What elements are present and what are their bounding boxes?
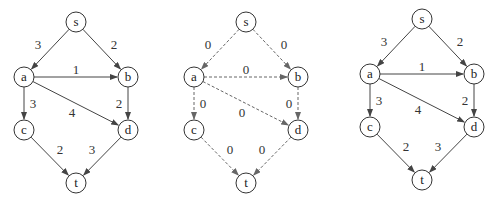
edge-weight-label: 0 [205, 37, 212, 52]
edge-weight-label: 3 [89, 142, 96, 157]
edge-line [33, 82, 118, 125]
edge-weight-label: 0 [286, 96, 293, 111]
edge-line [379, 79, 464, 122]
node-label: a [191, 69, 197, 84]
node-a: a [14, 67, 34, 87]
edge-weight-label: 4 [69, 105, 76, 120]
node-t: t [66, 173, 86, 193]
edge-d-t: 3 [84, 137, 121, 175]
edge-weight-label: 2 [462, 93, 469, 108]
node-label: d [471, 119, 478, 134]
node-label: a [367, 66, 373, 81]
edge-c-t: 2 [31, 137, 68, 175]
node-label: c [21, 122, 27, 137]
node-a: a [184, 67, 204, 87]
edge-c-t: 2 [377, 134, 414, 172]
edge-s-a: 0 [202, 29, 240, 69]
node-b: b [464, 64, 484, 84]
node-label: a [21, 69, 27, 84]
edge-weight-label: 0 [281, 37, 288, 52]
edge-weight-label: 2 [403, 139, 410, 154]
graph-original: 32134223sabcdt [14, 12, 138, 193]
edge-a-d: 0 [203, 82, 288, 125]
edge-c-t: 0 [201, 137, 238, 175]
node-t: t [412, 170, 432, 190]
edge-a-b: 0 [204, 62, 287, 78]
edge-s-a: 3 [32, 29, 70, 69]
edge-weight-label: 1 [73, 62, 80, 77]
edge-weight-label: 3 [381, 34, 388, 49]
edge-weight-label: 2 [116, 96, 123, 111]
node-t: t [236, 173, 256, 193]
edge-weight-label: 2 [457, 34, 464, 49]
node-s: s [412, 9, 432, 29]
edge-d-t: 0 [254, 137, 291, 175]
edge-weight-label: 2 [111, 37, 118, 52]
edge-weight-label: 3 [30, 96, 37, 111]
edge-weight-label: 0 [239, 105, 246, 120]
edge-b-d: 2 [116, 87, 128, 119]
edge-weight-label: 4 [415, 102, 422, 117]
edge-weight-label: 2 [57, 142, 64, 157]
edge-b-d: 0 [286, 87, 298, 119]
edge-weight-label: 0 [259, 142, 266, 157]
node-label: b [125, 69, 132, 84]
node-label: c [367, 119, 373, 134]
edge-a-d: 4 [33, 82, 118, 125]
edge-a-c: 3 [370, 84, 382, 116]
edge-b-d: 2 [462, 84, 474, 116]
edge-weight-label: 3 [35, 37, 42, 52]
edge-a-b: 1 [34, 62, 117, 78]
node-a: a [360, 64, 380, 84]
edge-weight-label: 3 [435, 139, 442, 154]
edge-s-a: 3 [378, 26, 416, 66]
edge-d-t: 3 [430, 134, 467, 172]
node-d: d [464, 117, 484, 137]
edge-a-c: 0 [194, 87, 206, 119]
graph-diagrams: 32134223sabcdt 00000000sabcdt 32134223sa… [0, 0, 500, 203]
node-c: c [14, 120, 34, 140]
graph-zero-weight: 00000000sabcdt [184, 12, 308, 193]
edge-weight-label: 0 [200, 96, 207, 111]
node-label: t [420, 172, 424, 187]
edge-weight-label: 1 [419, 59, 426, 74]
node-label: b [295, 69, 302, 84]
edge-s-b: 0 [253, 29, 291, 69]
node-label: d [295, 122, 302, 137]
node-label: c [191, 122, 197, 137]
node-b: b [118, 67, 138, 87]
node-d: d [288, 120, 308, 140]
edge-a-d: 4 [379, 79, 464, 122]
node-label: b [471, 66, 478, 81]
edge-a-b: 1 [380, 59, 463, 75]
node-s: s [236, 12, 256, 32]
edge-s-b: 2 [429, 26, 467, 66]
edge-s-b: 2 [83, 29, 121, 69]
node-c: c [360, 117, 380, 137]
node-c: c [184, 120, 204, 140]
edge-weight-label: 3 [376, 93, 383, 108]
edge-weight-label: 0 [227, 142, 234, 157]
node-label: t [244, 175, 248, 190]
node-label: s [419, 11, 424, 26]
node-label: t [74, 175, 78, 190]
node-label: s [73, 14, 78, 29]
node-b: b [288, 67, 308, 87]
node-s: s [66, 12, 86, 32]
edge-weight-label: 0 [243, 62, 250, 77]
node-d: d [118, 120, 138, 140]
graph-result: 32134223sabcdt [360, 9, 484, 190]
node-label: s [243, 14, 248, 29]
edge-line [203, 82, 288, 125]
edge-a-c: 3 [24, 87, 36, 119]
node-label: d [125, 122, 132, 137]
